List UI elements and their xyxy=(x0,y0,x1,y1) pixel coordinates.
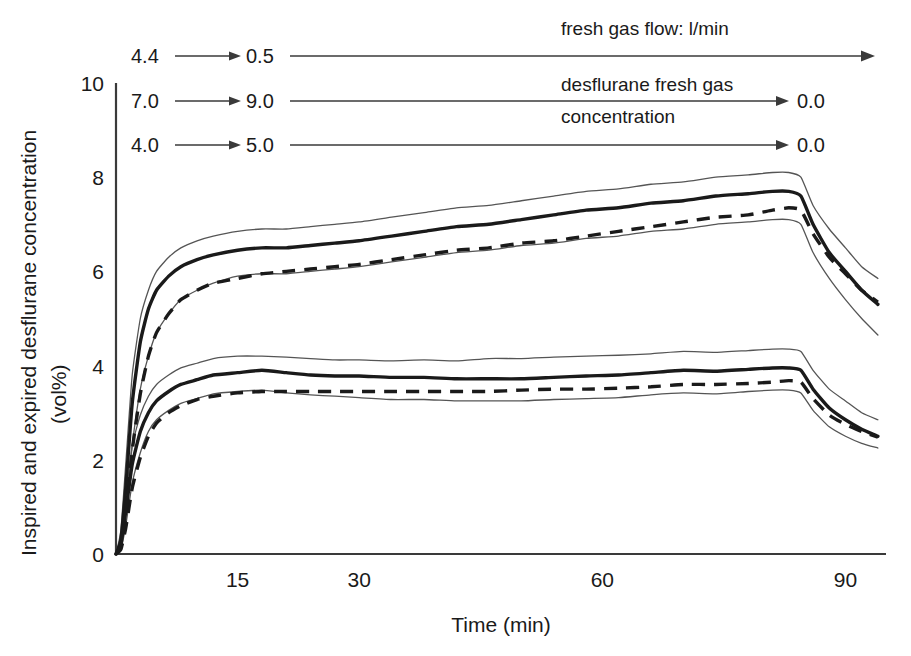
data-curves xyxy=(116,172,878,554)
curve-expired-alv-dashed xyxy=(116,381,878,554)
y-axis-title-line2: (vol%) xyxy=(47,364,70,424)
x-axis-tick-labels: 15306090 xyxy=(226,568,857,591)
x-tick-label-15: 15 xyxy=(226,568,249,591)
annotation-block: 4.4 0.5 fresh gas flow: l/min 7.0 9.0 0.… xyxy=(131,18,875,156)
curve-expired-mean xyxy=(116,208,878,554)
y-tick-label-6: 6 xyxy=(92,260,104,283)
desflurane-upper-arrowhead-left-icon xyxy=(229,97,241,106)
x-axis-title: Time (min) xyxy=(451,613,551,636)
annotation-row-desflurane-lower: 4.0 5.0 0.0 xyxy=(131,134,825,156)
y-axis-title-line1: Inspired and expired desflurane concentr… xyxy=(17,130,40,556)
desflurane-concentration-caption-line1: desflurane fresh gas xyxy=(561,74,733,95)
y-tick-label-2: 2 xyxy=(92,449,104,472)
desflurane-upper-start-value: 7.0 xyxy=(131,90,159,112)
desflurane-lower-end-value: 5.0 xyxy=(246,134,274,156)
desflurane-lower-arrowhead-right-icon xyxy=(776,140,789,150)
desflurane-lower-arrowhead-left-icon xyxy=(229,141,241,150)
curve-expired-alv-lower-sd xyxy=(116,390,878,554)
fresh-gas-flow-arrowhead-left-icon xyxy=(229,52,241,61)
desflurane-upper-final-value: 0.0 xyxy=(797,90,825,112)
fresh-gas-flow-start-value: 4.4 xyxy=(131,45,159,67)
axes xyxy=(116,83,886,554)
curve-inspired-upper-sd xyxy=(116,172,878,554)
curve-inspired-lower-sd xyxy=(116,219,878,554)
x-tick-label-90: 90 xyxy=(834,568,857,591)
desflurane-concentration-chart: 4.4 0.5 fresh gas flow: l/min 7.0 9.0 0.… xyxy=(0,0,911,656)
desflurane-lower-final-value: 0.0 xyxy=(797,134,825,156)
fresh-gas-flow-end-value: 0.5 xyxy=(246,45,274,67)
x-tick-label-30: 30 xyxy=(347,568,370,591)
fresh-gas-flow-arrowhead-right-icon xyxy=(861,51,875,62)
y-axis-title: Inspired and expired desflurane concentr… xyxy=(17,130,70,556)
desflurane-lower-start-value: 4.0 xyxy=(131,134,159,156)
y-tick-label-10: 10 xyxy=(81,72,104,95)
y-tick-label-4: 4 xyxy=(92,355,104,378)
y-axis-tick-labels: 0246810 xyxy=(81,72,105,566)
desflurane-upper-end-value: 9.0 xyxy=(246,90,274,112)
x-tick-label-60: 60 xyxy=(591,568,614,591)
curve-expired-alv-mean xyxy=(116,368,878,554)
fresh-gas-flow-caption: fresh gas flow: l/min xyxy=(561,18,729,39)
y-tick-label-0: 0 xyxy=(92,543,104,566)
desflurane-upper-arrowhead-right-icon xyxy=(776,96,789,106)
figure-container: 4.4 0.5 fresh gas flow: l/min 7.0 9.0 0.… xyxy=(0,0,911,656)
y-tick-label-8: 8 xyxy=(92,166,104,189)
desflurane-concentration-caption-line2: concentration xyxy=(561,106,675,127)
annotation-row-fresh-gas-flow: 4.4 0.5 fresh gas flow: l/min xyxy=(131,18,875,67)
annotation-row-desflurane-upper: 7.0 9.0 0.0 desflurane fresh gas concent… xyxy=(131,74,825,127)
